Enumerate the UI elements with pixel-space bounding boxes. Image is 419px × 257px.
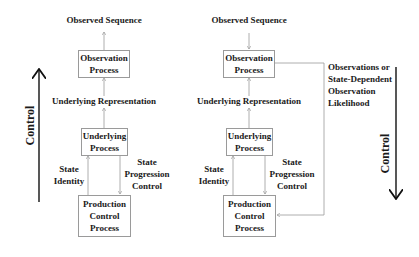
label-line: Control (122, 180, 172, 192)
box-line: Process (90, 64, 119, 76)
label-line: Identity (52, 175, 86, 187)
underlying-process-box: Underlying Process (226, 128, 273, 156)
diagram-connectors (0, 0, 419, 257)
underlying-representation-label: Underlying Representation (49, 95, 159, 107)
state-identity-label: State Identity (52, 163, 86, 187)
box-line: Production (228, 198, 271, 210)
label-line: Progression (122, 168, 172, 180)
observation-process-box: Observation Process (223, 50, 275, 78)
state-progression-control-label: State Progression Control (122, 156, 172, 192)
label-line: Progression (267, 168, 317, 180)
label-line: Likelihood (328, 97, 394, 109)
box-line: Observation (225, 52, 273, 64)
production-control-process-box: Production Control Process (223, 195, 276, 237)
label-line: State (267, 156, 317, 168)
control-up-label: Control (23, 104, 38, 148)
control-down-label: Control (378, 132, 393, 176)
label-line: Identity (197, 175, 231, 187)
box-line: Control (90, 210, 120, 222)
box-line: Production (83, 198, 126, 210)
label-line: State (52, 163, 86, 175)
label-line: Control (267, 180, 317, 192)
box-line: Observation (80, 52, 128, 64)
box-line: Control (235, 210, 265, 222)
underlying-process-box: Underlying Process (81, 128, 128, 156)
feedback-label: Observations or State-Dependent Observat… (328, 61, 394, 109)
box-line: Process (235, 64, 264, 76)
observed-sequence-label: Observed Sequence (64, 14, 144, 26)
observation-process-box: Observation Process (78, 50, 130, 78)
label-line: State (197, 163, 231, 175)
box-line: Underlying (83, 130, 127, 142)
label-line: Observations or (328, 61, 394, 73)
observed-sequence-label: Observed Sequence (209, 14, 289, 26)
state-identity-label: State Identity (197, 163, 231, 187)
state-progression-control-label: State Progression Control (267, 156, 317, 192)
label-line: State-Dependent (328, 73, 394, 85)
production-control-process-box: Production Control Process (78, 195, 131, 237)
underlying-representation-label: Underlying Representation (194, 95, 304, 107)
box-line: Underlying (228, 130, 272, 142)
box-line: Process (235, 222, 264, 234)
box-line: Process (90, 142, 119, 154)
box-line: Process (235, 142, 264, 154)
label-line: State (122, 156, 172, 168)
box-line: Process (90, 222, 119, 234)
label-line: Observation (328, 85, 394, 97)
